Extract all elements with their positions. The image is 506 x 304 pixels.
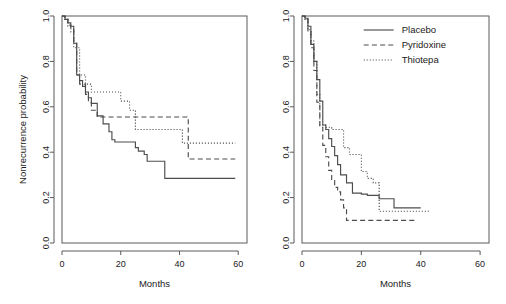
chart-panel-right: 0.00.20.40.60.81.00204060MonthsPlaceboPy… bbox=[253, 0, 506, 304]
legend-label-placebo: Placebo bbox=[402, 24, 436, 35]
legend-label-thiotepa: Thiotepa bbox=[402, 54, 440, 65]
y-axis-tick-label: 0.0 bbox=[281, 237, 291, 250]
y-axis-tick-label: 0.8 bbox=[41, 55, 51, 68]
y-axis-tick-label: 0.2 bbox=[281, 191, 291, 204]
y-axis-tick-label: 0.2 bbox=[41, 191, 51, 204]
x-axis-tick-label: 60 bbox=[233, 259, 243, 269]
x-axis-tick-label: 0 bbox=[59, 259, 64, 269]
y-axis-tick-label: 1.0 bbox=[41, 10, 51, 23]
y-axis-tick-label: 0.4 bbox=[281, 146, 291, 159]
x-axis-title: Months bbox=[380, 278, 411, 289]
left-panel-plot: 0.00.20.40.60.81.00204060MonthsNonrecurr… bbox=[0, 0, 253, 304]
survival-curve-thiotepa bbox=[62, 16, 235, 143]
plot-frame bbox=[62, 16, 247, 243]
legend-label-pyridoxine: Pyridoxine bbox=[402, 39, 446, 50]
right-panel-plot: 0.00.20.40.60.81.00204060MonthsPlaceboPy… bbox=[253, 0, 506, 304]
x-axis-tick-label: 40 bbox=[174, 259, 184, 269]
x-axis-tick-label: 40 bbox=[416, 259, 426, 269]
y-axis-title: Nonrecurrence probability bbox=[17, 75, 28, 184]
y-axis-tick-label: 0.8 bbox=[281, 55, 291, 68]
y-axis-tick-label: 1.0 bbox=[281, 10, 291, 23]
x-axis-tick-label: 20 bbox=[116, 259, 126, 269]
y-axis-tick-label: 0.6 bbox=[281, 101, 291, 114]
x-axis-tick-label: 60 bbox=[475, 259, 485, 269]
x-axis-title: Months bbox=[139, 278, 170, 289]
y-axis-tick-label: 0.0 bbox=[41, 237, 51, 250]
survival-curve-pyridoxine bbox=[302, 16, 415, 220]
y-axis-tick-label: 0.4 bbox=[41, 146, 51, 159]
survival-curve-figure: 0.00.20.40.60.81.00204060MonthsNonrecurr… bbox=[0, 0, 506, 304]
survival-curve-pyridoxine bbox=[62, 16, 235, 159]
plot-frame bbox=[302, 16, 489, 243]
y-axis-tick-label: 0.6 bbox=[41, 101, 51, 114]
chart-panel-left: 0.00.20.40.60.81.00204060MonthsNonrecurr… bbox=[0, 0, 253, 304]
x-axis-tick-label: 20 bbox=[356, 259, 366, 269]
x-axis-tick-label: 0 bbox=[299, 259, 304, 269]
